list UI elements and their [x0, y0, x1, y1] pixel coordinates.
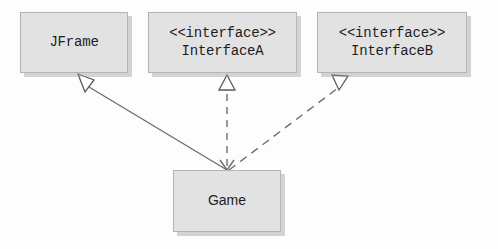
generalization-line-jframe — [89, 87, 227, 170]
stereotype-label-interface-b: <<interface>> — [339, 25, 446, 43]
class-box-game[interactable]: Game — [173, 170, 281, 232]
class-name-interface-a: InterfaceA — [181, 43, 263, 61]
class-box-interface-a[interactable]: <<interface>> InterfaceA — [148, 12, 297, 73]
hollow-triangle-arrowhead-interfacea — [219, 75, 235, 90]
class-name-jframe: JFrame — [49, 34, 98, 52]
class-name-interface-b: InterfaceB — [351, 43, 433, 61]
uml-class-diagram: JFrame <<interface>> InterfaceA <<interf… — [0, 0, 498, 249]
realization-line-interfaceb — [229, 88, 338, 170]
relationship-game-extends-jframe — [78, 74, 227, 170]
class-box-jframe[interactable]: JFrame — [20, 12, 128, 73]
stereotype-label-interface-a: <<interface>> — [169, 25, 276, 43]
relationship-game-implements-interfacea — [219, 75, 235, 170]
class-name-game: Game — [208, 192, 246, 210]
relationship-game-implements-interfaceb — [229, 75, 348, 170]
class-box-interface-b[interactable]: <<interface>> InterfaceB — [317, 12, 467, 73]
hollow-triangle-arrowhead-interfaceb — [332, 75, 348, 90]
